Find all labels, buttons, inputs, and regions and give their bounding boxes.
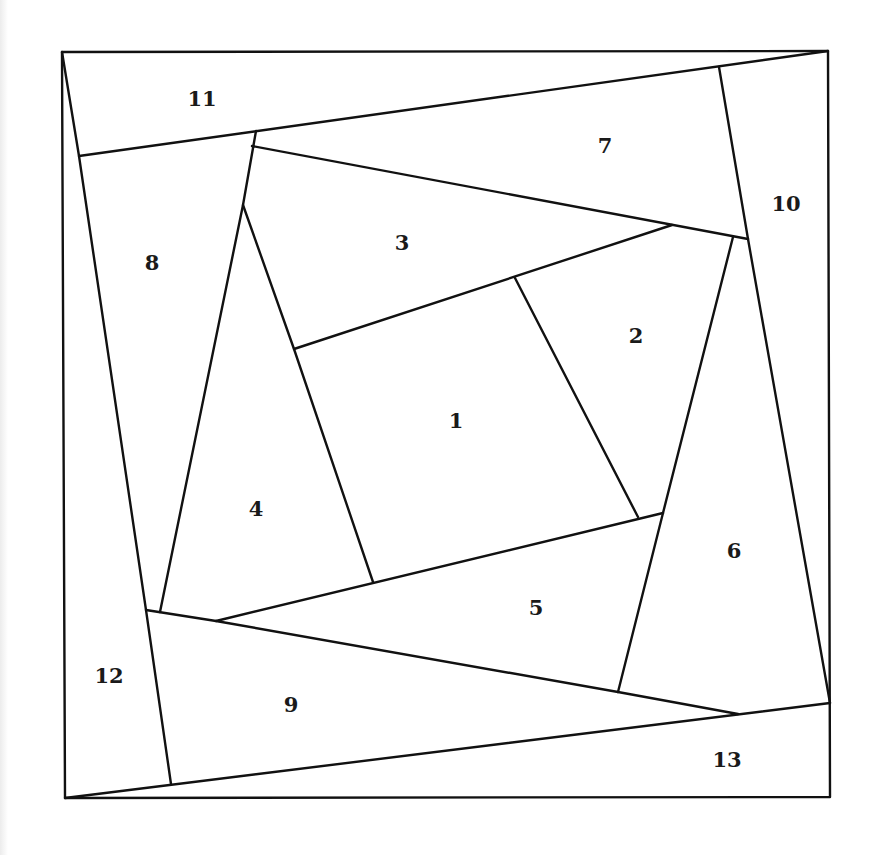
piece-label-10: 10 [771,191,800,216]
piece-label-1: 1 [449,408,464,433]
seam-1-2 [515,278,638,517]
seam-8-4 [160,131,256,612]
outer-border [62,51,830,798]
piece-label-7: 7 [598,133,613,158]
seam-1-5 [216,513,663,621]
quilt-block-diagram: 1 2 3 4 5 6 7 8 9 10 11 12 13 [0,0,889,855]
piece-label-9: 9 [284,692,299,717]
piece-label-6: 6 [727,538,742,563]
seam-10-left [719,67,830,703]
seam-3-4 [243,205,373,582]
seam-2-6 [618,237,733,692]
piece-label-4: 4 [249,496,264,521]
piece-label-3: 3 [395,230,410,255]
seam-9-top [146,610,738,714]
piece-label-11: 11 [187,86,216,111]
piece-label-13: 13 [712,747,741,772]
piece-label-2: 2 [629,323,644,348]
piece-label-12: 12 [94,663,123,688]
piece-label-8: 8 [145,250,160,275]
seam-3-1 [294,225,672,349]
seam-7-3 [252,146,748,239]
piece-label-5: 5 [529,595,544,620]
